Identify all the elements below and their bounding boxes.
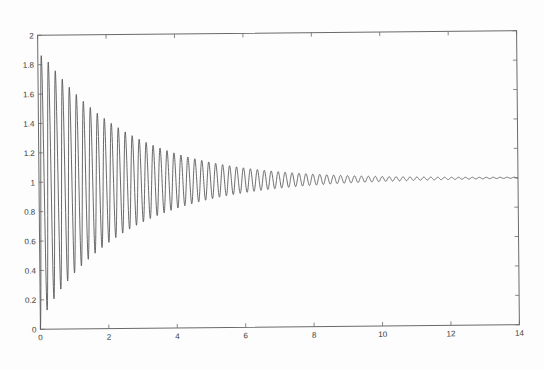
y-tick-label: 2 [29, 31, 34, 40]
x-tick-label: 2 [107, 333, 112, 342]
y-tick-label: 0 [32, 325, 37, 334]
y-axis: 00.20.40.60.811.21.41.61.82 [22, 27, 519, 335]
x-tick-label: 8 [312, 331, 317, 340]
axes: 02468101214 00.20.40.60.811.21.41.61.82 [22, 27, 524, 343]
x-tick-label: 10 [378, 330, 388, 339]
y-tick-label: 1.8 [23, 61, 35, 70]
y-tick-label: 1 [31, 178, 36, 187]
y-tick-label: 1.2 [24, 149, 36, 158]
x-tick-label: 0 [38, 333, 43, 342]
y-tick-label: 1.4 [23, 120, 35, 129]
y-tick-label: 0.8 [24, 208, 36, 217]
y-tick-label: 0.4 [25, 267, 37, 276]
y-tick-label: 0.6 [24, 237, 36, 246]
y-tick-label: 0.2 [25, 296, 37, 305]
x-tick-label: 4 [175, 332, 180, 341]
y-tick-label: 1.6 [23, 90, 35, 99]
figure: 02468101214 00.20.40.60.811.21.41.61.82 [0, 0, 544, 369]
x-tick-label: 6 [244, 331, 249, 340]
x-axis: 02468101214 [35, 31, 524, 343]
response-line [38, 51, 520, 329]
x-tick-label: 12 [447, 329, 457, 338]
line-chart: 02468101214 00.20.40.60.811.21.41.61.82 [0, 0, 544, 369]
x-tick-label: 14 [515, 329, 525, 338]
